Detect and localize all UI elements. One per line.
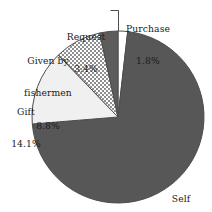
slice-label-gift: Gift 14.1% [2, 85, 50, 172]
slice-label-self-acquired-name-line1: Self [152, 194, 210, 205]
slice-label-gift-name: Gift [2, 107, 50, 118]
slice-label-purchase-value: 1.8% [126, 56, 170, 67]
slice-label-gift-value: 14.1% [2, 139, 50, 150]
slice-label-self-acquired: Self acquired 71.9% [152, 172, 210, 212]
slice-label-purchase: Purchase 1.8% [126, 2, 170, 89]
slice-label-given-by-fishermen-name-line1: Given by [10, 56, 86, 67]
slice-label-purchase-name: Purchase [126, 24, 170, 35]
pie-chart-figure: Purchase 1.8% Request 3.4% Given by fish… [0, 0, 212, 212]
